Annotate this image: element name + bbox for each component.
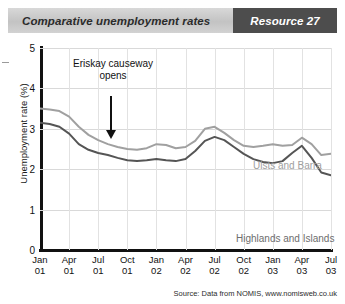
y-tick-label: 2 xyxy=(20,164,35,175)
y-tick-label: 3 xyxy=(20,123,35,134)
y-tick-label: 4 xyxy=(20,83,35,94)
gridline-vertical xyxy=(331,48,332,250)
annotation-arrow-head-icon xyxy=(106,130,116,139)
annotation-line-2: causeway xyxy=(109,58,153,69)
x-tick-year: 03 xyxy=(314,265,345,276)
series-label-highlands-and-islands: Highlands and Islands xyxy=(236,233,334,244)
edge-tick-mark xyxy=(2,62,9,63)
y-tick-label: 5 xyxy=(20,43,35,54)
x-tick-month: Jul xyxy=(314,254,345,265)
chart-page: Comparative unemployment rates Resource … xyxy=(0,0,345,304)
annotation-line-3: opens xyxy=(99,70,126,81)
header-bar: Comparative unemployment rates Resource … xyxy=(8,8,337,33)
annotation-line-1: Eriskay xyxy=(73,58,106,69)
annotation-text: Eriskay causeway opens xyxy=(70,58,156,81)
resource-badge: Resource 27 xyxy=(233,8,337,33)
page-title: Comparative unemployment rates xyxy=(8,8,233,33)
y-tick-label: 1 xyxy=(20,204,35,215)
annotation-arrow-shaft xyxy=(110,96,112,134)
series-label-uists-and-barra: Uists and Barra xyxy=(253,160,322,171)
source-note: Source: Data from NOMIS, www.nomisweb.co… xyxy=(174,289,337,298)
x-tick-label: Jul03 xyxy=(314,254,345,276)
